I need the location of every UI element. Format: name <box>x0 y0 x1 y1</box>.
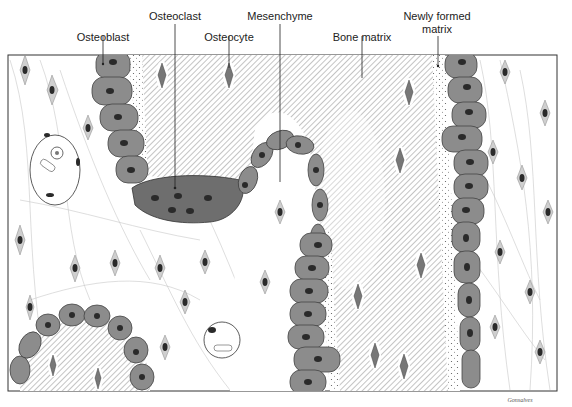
bone-histology-diagram: Osteoblast Osteoclast Osteocyte Mesenchy… <box>0 0 572 407</box>
label-newly-formed-matrix-line2: matrix <box>422 23 452 35</box>
label-bone-matrix: Bone matrix <box>333 31 392 43</box>
label-osteocyte: Osteocyte <box>204 31 254 43</box>
label-newly-formed-matrix-line1: Newly formed <box>403 10 470 22</box>
artist-signature: Gonsalves <box>508 397 534 403</box>
label-mesenchyme: Mesenchyme <box>247 10 312 22</box>
blood-vessel-left <box>30 135 80 205</box>
label-osteoclast: Osteoclast <box>149 10 201 22</box>
label-osteoblast: Osteoblast <box>77 31 130 43</box>
blood-vessel-right <box>204 322 240 358</box>
